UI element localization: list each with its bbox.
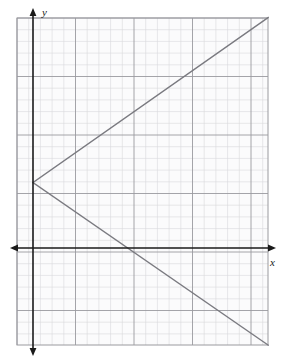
- y-axis-label: y: [41, 6, 47, 18]
- x-axis-arrow-left-icon: [10, 245, 18, 252]
- x-axis-label: x: [269, 256, 275, 268]
- coordinate-plot: y x: [0, 0, 283, 361]
- graph-figure: y x: [0, 0, 283, 361]
- x-axis-arrow-right-icon: [268, 245, 276, 252]
- y-axis-arrow-up-icon: [30, 8, 37, 16]
- y-axis-arrow-down-icon: [30, 348, 37, 356]
